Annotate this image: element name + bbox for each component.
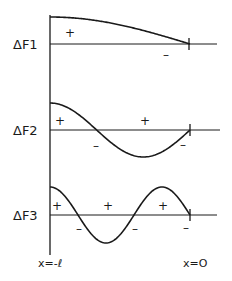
plus-sign-marker: +: [52, 199, 62, 213]
panel-label-dF1: ΔF1: [13, 37, 38, 52]
panel-label-dF3: ΔF3: [13, 208, 38, 223]
sign-markers-dF2: +–+–: [55, 114, 186, 153]
panel-dF3: ΔF3 +–+–+–: [13, 187, 217, 243]
minus-sign-marker: –: [76, 222, 82, 236]
minus-sign-marker: –: [93, 139, 99, 153]
minus-sign-marker: –: [132, 222, 138, 236]
x-right-label: x=O: [183, 257, 208, 270]
panel-dF2: ΔF2 +–+–: [13, 103, 220, 157]
minus-sign-marker: –: [183, 221, 189, 235]
panel-dF1: ΔF1 +–: [13, 17, 217, 62]
plus-sign-marker: +: [158, 199, 168, 213]
minus-sign-marker: –: [180, 138, 186, 152]
plus-sign-marker: +: [65, 26, 75, 40]
x-left-label: x=-ℓ: [38, 257, 62, 270]
plus-sign-marker: +: [103, 199, 113, 213]
panel-label-dF2: ΔF2: [13, 123, 38, 138]
minus-sign-marker: –: [163, 48, 169, 62]
plus-sign-marker: +: [55, 114, 65, 128]
plus-sign-marker: +: [140, 114, 150, 128]
sign-markers-dF3: +–+–+–: [52, 199, 189, 236]
mode-shape-diagram: ΔF1 +– ΔF2 +–+– ΔF3 +–+–+– x=-ℓ x=O: [0, 0, 232, 281]
